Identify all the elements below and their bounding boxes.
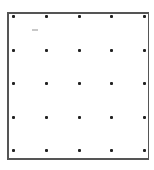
grid-dot xyxy=(110,116,113,119)
grid-dot xyxy=(78,15,81,18)
grid-dot xyxy=(110,149,113,152)
grid-dot xyxy=(143,149,146,152)
grid-dot xyxy=(45,15,48,18)
grid-dot xyxy=(143,15,146,18)
grid-dot xyxy=(110,82,113,85)
grid-dot xyxy=(110,49,113,52)
grid-dot xyxy=(78,149,81,152)
grid-dot xyxy=(12,49,15,52)
grid-dot xyxy=(45,149,48,152)
grid-dot xyxy=(143,116,146,119)
grid-dot xyxy=(78,116,81,119)
grid-dot xyxy=(110,15,113,18)
grid-dot xyxy=(78,49,81,52)
grid-dot xyxy=(45,49,48,52)
grid-frame xyxy=(7,12,149,160)
grid-dot xyxy=(12,15,15,18)
grid-dot xyxy=(12,149,15,152)
grid-dot xyxy=(143,82,146,85)
faint-mark xyxy=(32,29,38,31)
grid-dot xyxy=(78,82,81,85)
grid-dot xyxy=(143,49,146,52)
grid-dot xyxy=(12,82,15,85)
grid-dot xyxy=(45,82,48,85)
grid-dot xyxy=(12,116,15,119)
grid-dot xyxy=(45,116,48,119)
